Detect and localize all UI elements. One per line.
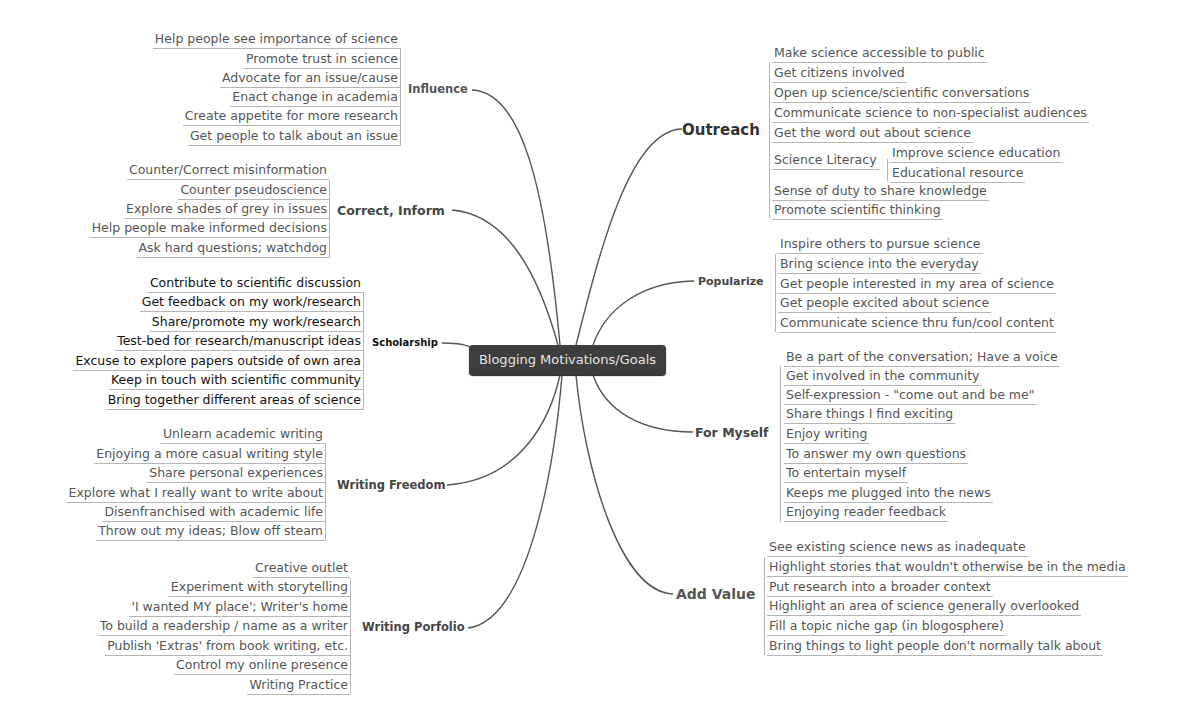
leaf-item[interactable]: Creative outlet	[253, 559, 350, 578]
science-literacy-bracket	[887, 159, 888, 181]
add-value-bracket	[764, 557, 765, 655]
leaf-item[interactable]: Explore shades of grey in issues	[124, 200, 329, 219]
leaf-item[interactable]: Self-expression - "come out and be me"	[784, 386, 1036, 405]
leaf-item[interactable]: Bring science into the everyday	[778, 255, 981, 274]
leaf-item[interactable]: Keeps me plugged into the news	[784, 484, 993, 503]
leaf-item[interactable]: Bring things to light people don't norma…	[767, 637, 1103, 656]
leaf-item[interactable]: Throw out my ideas; Blow off steam	[96, 522, 325, 541]
leaf-item[interactable]: Explore what I really want to write abou…	[67, 484, 325, 503]
leaf-item[interactable]: Keep in touch with scientific community	[109, 371, 363, 390]
leaf-item[interactable]: Experiment with storytelling	[169, 578, 350, 597]
leaf-item[interactable]: Get the word out about science	[772, 124, 973, 143]
leaf-item[interactable]: Make science accessible to public	[772, 44, 987, 63]
leaf-item[interactable]: Share/promote my work/research	[150, 313, 363, 332]
scholarship-bracket	[363, 292, 364, 410]
leaf-item[interactable]: Communicate science thru fun/cool conten…	[778, 314, 1056, 333]
leaf-item[interactable]: Inspire others to pursue science	[778, 235, 983, 254]
leaf-item[interactable]: Get citizens involved	[772, 64, 907, 83]
leaf-item[interactable]: Bring together different areas of scienc…	[106, 391, 363, 410]
branch-outreach[interactable]: Outreach	[682, 121, 760, 139]
correct-inform-bracket	[329, 180, 330, 258]
leaf-item[interactable]: Enjoying reader feedback	[784, 503, 948, 522]
branch-correct-inform[interactable]: Correct, Inform	[337, 203, 445, 218]
leaf-item[interactable]: Enjoying a more casual writing style	[94, 445, 325, 464]
leaf-item[interactable]: Counter/Correct misinformation	[127, 161, 329, 180]
leaf-item[interactable]: To build a readership / name as a writer	[98, 617, 350, 636]
leaf-item[interactable]: Control my online presence	[174, 656, 350, 675]
leaf-item[interactable]: Be a part of the conversation; Have a vo…	[784, 348, 1060, 367]
leaf-item[interactable]: Highlight stories that wouldn't otherwis…	[767, 558, 1128, 577]
influence-bracket	[400, 48, 401, 146]
leaf-item[interactable]: Communicate science to non-specialist au…	[772, 104, 1089, 123]
leaf-item[interactable]: Get people interested in my area of scie…	[778, 275, 1056, 294]
leaf-item[interactable]: Get people to talk about an issue	[188, 127, 400, 146]
leaf-item[interactable]: Open up science/scientific conversations	[772, 84, 1031, 103]
branch-add-value[interactable]: Add Value	[676, 586, 756, 602]
mind-map-canvas: Blogging Motivations/Goals Influence Hel…	[0, 0, 1192, 720]
branch-influence[interactable]: Influence	[408, 82, 468, 96]
branch-for-myself[interactable]: For Myself	[695, 425, 768, 440]
leaf-item[interactable]: Excuse to explore papers outside of own …	[73, 352, 363, 371]
leaf-item[interactable]: Disenfranchised with academic life	[102, 503, 325, 522]
leaf-item[interactable]: Help people see importance of science	[153, 30, 400, 49]
leaf-item[interactable]: Test-bed for research/manuscript ideas	[115, 332, 363, 351]
leaf-item[interactable]: Ask hard questions; watchdog	[137, 239, 329, 258]
leaf-item[interactable]: 'I wanted MY place'; Writer's home	[129, 598, 350, 617]
leaf-item[interactable]: Get people excited about science	[778, 294, 991, 313]
leaf-item[interactable]: Promote scientific thinking	[772, 201, 943, 220]
leaf-item[interactable]: Sense of duty to share knowledge	[772, 182, 989, 201]
leaf-item[interactable]: Advocate for an issue/cause	[220, 69, 400, 88]
leaf-item-science-literacy[interactable]: Science Literacy	[772, 151, 879, 170]
leaf-item[interactable]: Contribute to scientific discussion	[148, 274, 363, 293]
leaf-item[interactable]: Publish 'Extras' from book writing, etc.	[105, 637, 350, 656]
leaf-item[interactable]: Put research into a broader context	[767, 578, 993, 597]
leaf-item[interactable]: Highlight an area of science generally o…	[767, 597, 1081, 616]
leaf-item[interactable]: Counter pseudoscience	[178, 181, 329, 200]
popularize-bracket	[775, 254, 776, 332]
leaf-item[interactable]: To answer my own questions	[784, 445, 968, 464]
leaf-item[interactable]: Promote trust in science	[244, 50, 400, 69]
leaf-item[interactable]: Fill a topic niche gap (in blogosphere)	[767, 617, 1006, 636]
branch-writing-porfolio[interactable]: Writing Porfolio	[362, 620, 465, 634]
leaf-item[interactable]: Get involved in the community	[784, 367, 982, 386]
leaf-item[interactable]: Enjoy writing	[784, 425, 869, 444]
leaf-item[interactable]: Unlearn academic writing	[161, 425, 325, 444]
branch-popularize[interactable]: Popularize	[698, 275, 764, 288]
leaf-item[interactable]: Enact change in academia	[230, 88, 400, 107]
writing-porfolio-bracket	[350, 578, 351, 694]
leaf-item[interactable]: See existing science news as inadequate	[767, 538, 1028, 557]
writing-freedom-bracket	[325, 443, 326, 541]
for-myself-bracket	[780, 366, 781, 522]
leaf-item[interactable]: To entertain myself	[784, 464, 908, 483]
central-topic[interactable]: Blogging Motivations/Goals	[469, 345, 666, 375]
leaf-item[interactable]: Educational resource	[890, 164, 1025, 183]
leaf-item[interactable]: Share things I find exciting	[784, 405, 955, 424]
branch-scholarship[interactable]: Scholarship	[372, 337, 438, 348]
leaf-item[interactable]: Writing Practice	[247, 676, 350, 695]
branch-writing-freedom[interactable]: Writing Freedom	[337, 478, 445, 492]
leaf-item[interactable]: Share personal experiences	[147, 464, 325, 483]
leaf-item[interactable]: Improve science education	[890, 144, 1062, 163]
outreach-bracket	[769, 62, 770, 218]
leaf-item[interactable]: Get feedback on my work/research	[140, 293, 363, 312]
leaf-item[interactable]: Create appetite for more research	[183, 107, 400, 126]
leaf-item[interactable]: Help people make informed decisions	[90, 219, 329, 238]
